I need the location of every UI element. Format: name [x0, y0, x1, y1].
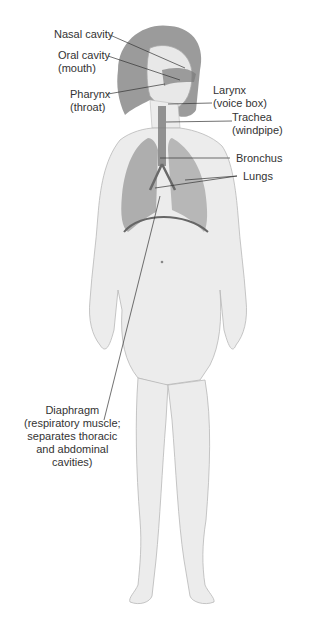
trachea: [158, 106, 166, 166]
label-pharynx: Pharynx (throat): [70, 88, 110, 114]
label-trachea: Trachea (windpipe): [232, 111, 283, 137]
label-lungs: Lungs: [243, 170, 273, 183]
label-diaphragm: Diaphragm (respiratory muscle; separates…: [24, 404, 121, 469]
left-leg: [130, 378, 168, 604]
label-oral-cavity: Oral cavity (mouth): [58, 49, 110, 75]
label-nasal-cavity: Nasal cavity: [54, 28, 113, 41]
label-larynx: Larynx (voice box): [213, 84, 267, 110]
label-bronchus: Bronchus: [236, 152, 282, 165]
right-leg: [168, 380, 214, 604]
navel: [161, 261, 164, 264]
torso: [89, 128, 246, 385]
